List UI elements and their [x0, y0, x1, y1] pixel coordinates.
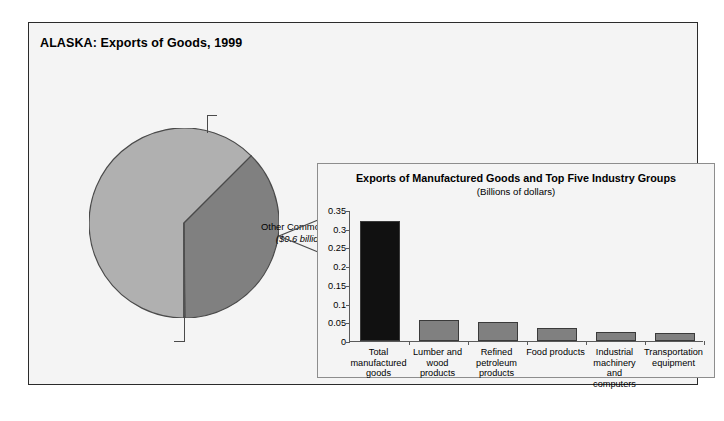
y-axis-tick-label: 0.05	[328, 318, 346, 328]
pie-svg	[89, 128, 279, 318]
x-axis-label: Lumber andwood products	[408, 347, 467, 379]
pie-chart: Other Commodities ($0.6 billion) Manufac…	[89, 128, 279, 318]
x-axis-tick-mark	[645, 341, 646, 345]
x-axis-label-line: Total	[369, 347, 388, 357]
x-axis-label: Industrialmachinery andcomputers	[585, 347, 644, 389]
x-axis-label-line: equipment	[652, 358, 695, 368]
plot-area: 00.050.10.150.20.250.30.35	[349, 211, 703, 342]
bar-chart-subtitle: (Billions of dollars)	[318, 186, 714, 197]
x-axis-label-line: Transportation	[644, 347, 703, 357]
x-axis-label-line: petroleum	[476, 358, 517, 368]
x-axis-label-line: Industrial	[596, 347, 633, 357]
bar-chart-panel: Exports of Manufactured Goods and Top Fi…	[317, 163, 715, 378]
x-axis-tick-mark	[468, 341, 469, 345]
x-axis-label-line: machinery and	[593, 358, 635, 379]
x-axis-label: Refinedpetroleumproducts	[467, 347, 526, 379]
bar-total-manufactured-goods	[360, 221, 400, 341]
figure-panel: ALASKA: Exports of Goods, 1999 Other Com…	[28, 22, 698, 385]
x-axis-tick-mark	[409, 341, 410, 345]
leader-line-other-commodities	[207, 115, 208, 133]
x-axis-label-line: wood products	[420, 358, 455, 379]
bar-chart-title: Exports of Manufactured Goods and Top Fi…	[318, 172, 714, 184]
x-axis-label-line: goods	[366, 368, 391, 378]
y-axis-tick-label: 0.15	[328, 281, 346, 291]
y-axis-tick-label: 0.2	[333, 262, 346, 272]
bar-transportation-equipment	[655, 333, 695, 341]
x-axis-label-line: Refined	[481, 347, 513, 357]
leader-line-agriculture	[184, 316, 185, 342]
bar-food-products	[537, 328, 577, 341]
x-axis-label: Transportationequipment	[644, 347, 703, 368]
bar-series	[350, 211, 703, 341]
callout-connector-icon	[278, 219, 320, 253]
x-axis-label-line: manufactured	[350, 358, 406, 368]
x-axis-label-line: computers	[593, 379, 636, 389]
y-axis-tick-mark	[346, 342, 350, 343]
x-axis-label: Food products	[526, 347, 585, 358]
page-title: ALASKA: Exports of Goods, 1999	[40, 36, 242, 50]
x-axis-tick-mark	[704, 341, 705, 345]
x-axis-label-line: products	[479, 368, 514, 378]
bar-refined-petroleum-products	[478, 322, 518, 341]
x-axis-label: Totalmanufacturedgoods	[349, 347, 408, 379]
bar-industrial-machinery-and-computers	[596, 332, 636, 341]
x-axis-label-line: Food products	[526, 347, 585, 357]
leader-line-agriculture-elbow	[174, 341, 185, 342]
x-axis-tick-mark	[527, 341, 528, 345]
bar-lumber-and-wood-products	[419, 320, 459, 341]
y-axis-tick-label: 0.1	[333, 300, 346, 310]
x-axis-tick-mark	[586, 341, 587, 345]
y-axis-tick-label: 0.3	[333, 225, 346, 235]
y-axis-tick-label: 0.35	[328, 206, 346, 216]
y-axis-tick-label: 0.25	[328, 243, 346, 253]
leader-line-other-commodities-elbow	[207, 115, 217, 116]
x-axis-label-line: Lumber and	[413, 347, 462, 357]
